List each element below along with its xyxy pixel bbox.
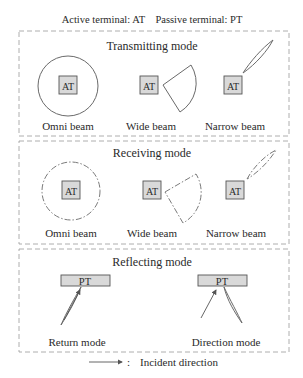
panel-reflecting: Reflecting mode PT Return mode PT Direct… (19, 249, 289, 352)
terminal-label: AT (227, 81, 239, 92)
header-caption: Active terminal: AT Passive terminal: PT (62, 14, 243, 25)
panel-title: Transmitting mode (106, 39, 197, 53)
beam-label: Wide beam (126, 120, 176, 132)
legend-separator: : (127, 356, 130, 368)
legend: : Incident direction (89, 356, 218, 368)
incident-arrow (64, 290, 80, 320)
panel-receiving: Receiving mode AT Omni beam AT Wide beam… (19, 141, 289, 244)
terminal-label: AT (65, 186, 77, 197)
terminal-label: PT (79, 276, 92, 287)
omni-beam-rx: AT (42, 162, 100, 220)
wide-beam-pattern (163, 65, 196, 112)
reflected-beam-pattern (224, 287, 242, 323)
omni-beam-tx: AT (38, 56, 98, 116)
beam-modes-diagram: Active terminal: AT Passive terminal: PT… (0, 0, 303, 378)
beam-label: Wide beam (127, 227, 177, 239)
narrow-beam-pattern (247, 150, 276, 179)
wide-beam-tx: AT (140, 65, 196, 112)
mode-label: Direction mode (192, 336, 261, 348)
mode-label: Return mode (48, 336, 105, 348)
panel-title: Receiving mode (113, 146, 191, 160)
beam-label: Omni beam (42, 120, 94, 132)
narrow-beam-rx: AT (226, 150, 276, 199)
terminal-label: AT (146, 186, 158, 197)
narrow-beam-tx: AT (224, 40, 273, 94)
beam-label: Omni beam (45, 227, 97, 239)
beam-label: Narrow beam (206, 227, 267, 239)
return-mode: PT (61, 275, 110, 325)
terminal-label: AT (62, 81, 74, 92)
panel-title: Reflecting mode (112, 255, 192, 269)
wide-beam-rx: AT (143, 174, 201, 223)
panel-transmitting: Transmitting mode AT Omni beam AT Wide b… (19, 31, 289, 136)
direction-mode: PT (198, 275, 247, 323)
beam-label: Narrow beam (205, 120, 266, 132)
terminal-label: PT (216, 276, 229, 287)
incident-arrow (201, 290, 216, 318)
terminal-label: AT (143, 81, 155, 92)
legend-text: Incident direction (140, 356, 218, 368)
wide-beam-pattern (165, 174, 201, 223)
terminal-label: AT (229, 186, 241, 197)
narrow-beam-pattern (243, 40, 273, 73)
